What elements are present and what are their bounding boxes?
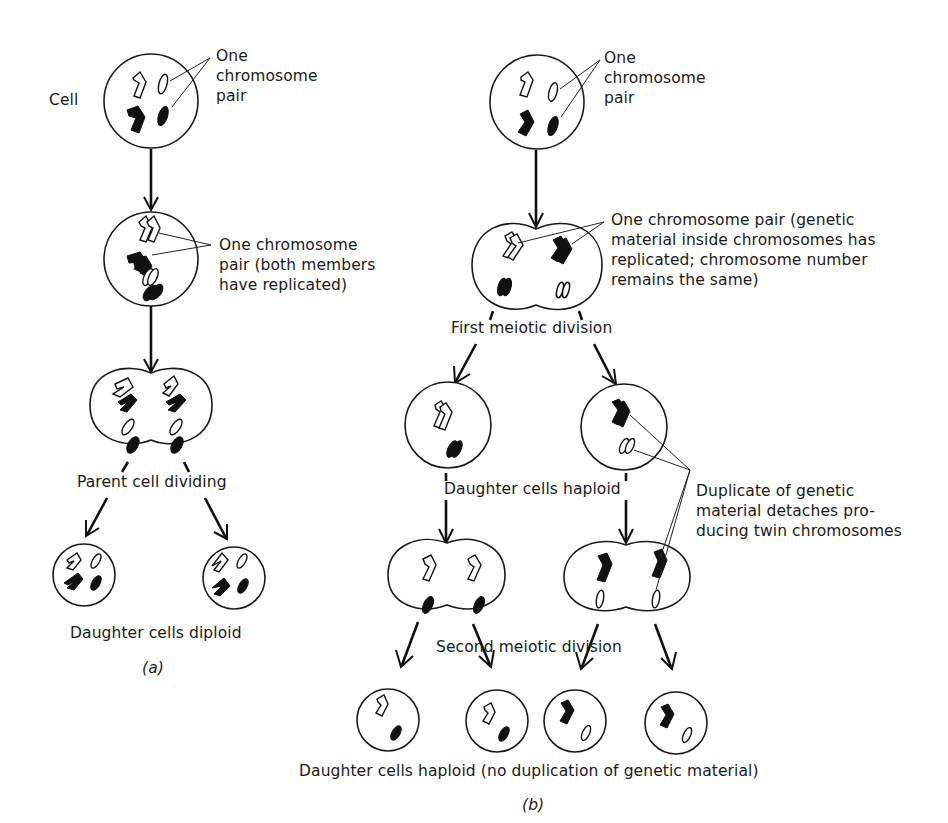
panel-a: [53, 54, 265, 609]
cell-b-haploid-left: [405, 382, 491, 468]
label-a-chromosome-pair: One chromosome pair: [216, 46, 318, 106]
label-duplicate-detaches: Duplicate of genetic material detaches p…: [696, 481, 902, 541]
cell-b-final-3: [544, 690, 606, 752]
label-daughter-haploid: Daughter cells haploid: [444, 479, 621, 499]
cell-a-initial: [104, 54, 210, 148]
caption-b: (b): [522, 795, 544, 815]
cell-b-final-2: [466, 690, 528, 752]
label-daughter-diploid: Daughter cells diploid: [70, 623, 242, 643]
meiosis-mitosis-diagram: [0, 0, 948, 823]
cell-a-daughter-left: [53, 544, 115, 606]
cell-a-replicated: [104, 212, 211, 306]
caption-a: (a): [142, 658, 164, 678]
cell-a-dividing: [90, 368, 212, 455]
label-cell: Cell: [49, 90, 78, 110]
label-a-replicated-pair: One chromosome pair (both members have r…: [219, 235, 376, 295]
label-b-replicated-pair: One chromosome pair (genetic material in…: [611, 210, 876, 290]
label-final-haploid: Daughter cells haploid (no duplication o…: [299, 761, 759, 781]
cell-a-daughter-right: [203, 547, 265, 609]
label-b-chromosome-pair: One chromosome pair: [604, 48, 706, 108]
cell-b-final-4: [645, 692, 707, 754]
cell-b-second-division-left: [388, 540, 505, 616]
cell-b-haploid-right: [581, 384, 690, 470]
label-first-meiotic-division: First meiotic division: [451, 318, 612, 338]
label-second-meiotic-division: Second meiotic division: [436, 637, 622, 657]
cell-b-final-1: [357, 689, 419, 751]
label-parent-dividing: Parent cell dividing: [77, 472, 227, 492]
cell-b-replicated: [472, 222, 604, 309]
cell-b-initial: [490, 55, 600, 149]
